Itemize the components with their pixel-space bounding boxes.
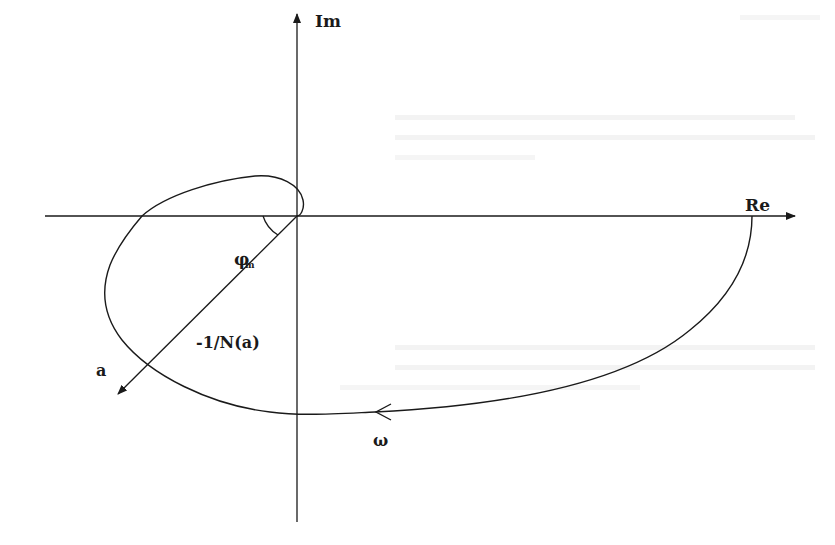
nyquist-curve (105, 176, 752, 415)
amplitude-label: a (96, 361, 106, 380)
describing-function-locus (118, 216, 297, 394)
describing-function-label: -1/N(a) (196, 333, 260, 352)
nyquist-diagram: Im Re φ m -1/N(a) a ω (0, 0, 835, 545)
phase-margin-arc (263, 216, 278, 235)
real-axis-label: Re (745, 195, 770, 215)
phase-margin-label: φ m (234, 249, 255, 270)
imaginary-axis-label: Im (315, 11, 341, 31)
frequency-label: ω (373, 431, 388, 450)
svg-text:m: m (245, 260, 255, 270)
